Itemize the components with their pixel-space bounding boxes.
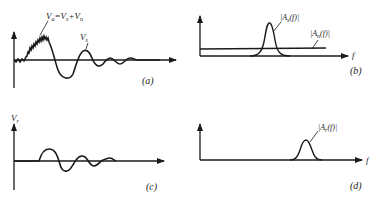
signal-diagram: Va=Vs+Vn Vs (a) |As(f)| |An(f)| f (b) Vr	[0, 0, 378, 202]
as-leader-line	[273, 22, 281, 32]
vs-label: Vs	[80, 32, 89, 43]
vr-label: Vr	[11, 113, 20, 124]
va-leader-line	[40, 21, 48, 35]
panel-b-caption: (b)	[350, 65, 362, 77]
as-spectrum-label: |As(f)|	[280, 13, 299, 23]
panel-a-caption: (a)	[142, 75, 154, 87]
an-spectrum-label: |An(f)|	[310, 29, 330, 39]
signal-spectrum-peak	[250, 23, 290, 56]
panel-b: |As(f)| |An(f)| f (b)	[200, 13, 362, 77]
vs-leader-line	[86, 43, 88, 49]
panel-b-f-label: f	[352, 50, 356, 60]
recovered-signal-curve	[14, 149, 116, 171]
panel-d: |Ar(f)| f (d)	[200, 123, 370, 192]
panel-d-f-label: f	[366, 155, 370, 165]
recovered-spectrum-peak	[290, 140, 322, 160]
ar-leader-line	[310, 131, 318, 142]
panel-a: Va=Vs+Vn Vs (a)	[14, 11, 176, 88]
noisy-signal-curve	[14, 36, 49, 62]
ar-spectrum-label: |Ar(f)|	[318, 123, 337, 133]
panel-d-caption: (d)	[350, 180, 362, 192]
panel-c: Vr (c)	[11, 113, 164, 193]
noise-spectrum-line	[200, 48, 326, 49]
va-equation-label: Va=Vs+Vn	[46, 11, 83, 22]
panel-c-caption: (c)	[146, 181, 158, 193]
